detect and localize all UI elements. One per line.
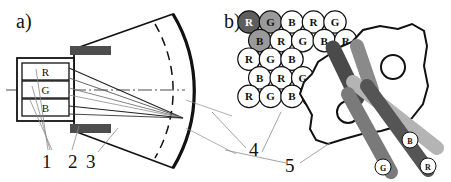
leader-5 bbox=[300, 143, 330, 163]
emitter-box-r: R bbox=[22, 63, 69, 80]
sensor-cell-label: R bbox=[245, 53, 254, 65]
figure-root: a) R G B bbox=[0, 0, 451, 182]
aperture-block-bottom bbox=[70, 124, 111, 133]
emitter-box-g: G bbox=[22, 81, 69, 98]
callout-label-5: 5 bbox=[285, 155, 295, 176]
sensor-cell-label: G bbox=[298, 35, 307, 47]
panel-a-label: a) bbox=[16, 10, 32, 33]
emitter-label-g: G bbox=[42, 84, 50, 96]
sensor-cell: R bbox=[238, 85, 260, 107]
figure-canvas: a) R G B bbox=[0, 0, 451, 182]
sensor-cell-label: R bbox=[277, 35, 286, 47]
panel-b: b) RGBRGBRGBRRGBBRGRGBR B G R bbox=[212, 10, 437, 176]
panel-connector-lower bbox=[186, 128, 236, 154]
sensor-cell-label: B bbox=[288, 16, 296, 28]
sensor-cell-label: B bbox=[256, 72, 264, 84]
sensor-cell-label: R bbox=[310, 16, 319, 28]
callout-label-2: 2 bbox=[68, 151, 78, 172]
callout-label-3: 3 bbox=[86, 151, 96, 172]
emitter-label-r: R bbox=[42, 66, 50, 78]
callout-label-4: 4 bbox=[249, 139, 259, 160]
sensor-cell-label: R bbox=[277, 72, 286, 84]
sensor-cell-label: B bbox=[288, 90, 296, 102]
sensor-cell-label: B bbox=[288, 53, 296, 65]
sensor-cell: G bbox=[259, 85, 281, 107]
sensor-cell-label: G bbox=[266, 16, 275, 28]
blob-inner-circle-upper bbox=[381, 55, 405, 79]
sensor-cell-label: G bbox=[266, 53, 275, 65]
sensor-cell-label: G bbox=[266, 90, 275, 102]
rod-r-label: R bbox=[425, 163, 431, 172]
sensor-cell-label: R bbox=[245, 90, 254, 102]
fan-beam-outline bbox=[74, 14, 194, 168]
rod-g-label: G bbox=[380, 164, 386, 173]
emitter-box-b: B bbox=[22, 99, 69, 116]
leader-4-left bbox=[212, 112, 246, 148]
sensor-cell: B bbox=[281, 85, 303, 107]
callout-label-1: 1 bbox=[42, 151, 52, 172]
sensor-cell-label: G bbox=[331, 16, 340, 28]
sensor-cell-label: R bbox=[245, 16, 254, 28]
sensor-cell-label: B bbox=[256, 35, 264, 47]
rod-b-label: B bbox=[407, 137, 413, 146]
panel-a: a) R G B bbox=[6, 10, 194, 172]
emitter-label-b: B bbox=[42, 102, 49, 114]
leader-4 bbox=[262, 112, 281, 152]
aperture-block-top bbox=[70, 46, 111, 55]
